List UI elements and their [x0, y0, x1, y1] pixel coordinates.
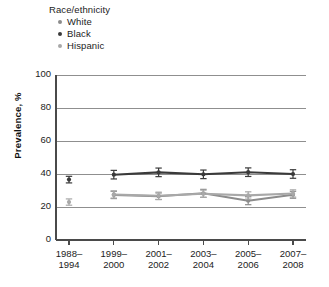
y-tick-label-20: 20 — [25, 201, 51, 211]
y-tick-label-60: 60 — [25, 135, 51, 145]
x-tick-label-4: 2005–2006 — [225, 248, 271, 270]
x-tick-label-1: 1999–2000 — [91, 248, 137, 270]
y-tick-label-40: 40 — [25, 168, 51, 178]
x-tick-label-3: 2003–2004 — [180, 248, 226, 270]
datapoint-black-3 — [201, 172, 205, 176]
x-tick-label-2: 2001–2002 — [136, 248, 182, 270]
y-tick-label-80: 80 — [25, 102, 51, 112]
x-tick-label-0: 1988–1994 — [46, 248, 92, 270]
datapoint-black-5 — [291, 172, 295, 176]
datapoint-black-2 — [157, 170, 161, 174]
datapoint-hispanic-3 — [201, 192, 205, 196]
datapoint-hispanic-4 — [246, 193, 250, 197]
datapoint-black-0 — [67, 178, 71, 182]
datapoint-hispanic-2 — [157, 194, 161, 198]
datapoint-hispanic-0 — [67, 200, 71, 204]
datapoint-hispanic-1 — [112, 192, 116, 196]
x-tick-label-5: 2007–2008 — [270, 248, 316, 270]
datapoint-black-4 — [246, 170, 250, 174]
figure: Race/ethnicity White Black Hispanic Prev… — [0, 0, 329, 287]
datapoint-hispanic-5 — [291, 191, 295, 195]
y-tick-label-0: 0 — [25, 234, 51, 244]
datapoint-black-1 — [112, 173, 116, 177]
y-tick-label-100: 100 — [25, 69, 51, 79]
